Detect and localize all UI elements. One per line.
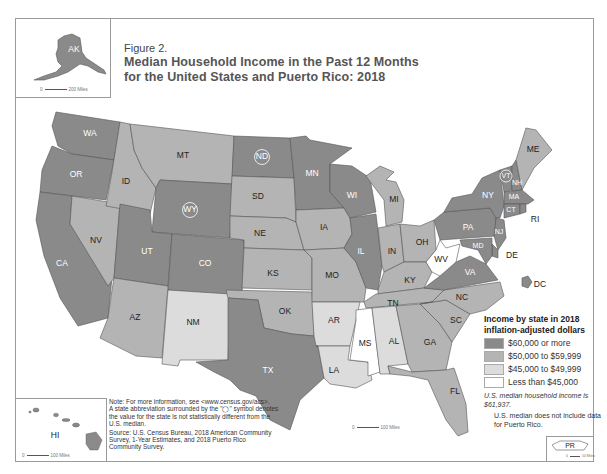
label-DC: DC <box>534 279 546 289</box>
label-NE: NE <box>254 228 266 238</box>
label-WI: WI <box>347 190 357 200</box>
scale-label: 200 Miles <box>69 87 88 92</box>
label-TN: TN <box>387 298 398 308</box>
label-MD: MD <box>473 242 484 249</box>
label-NY: NY <box>482 190 494 200</box>
legend-item: $60,000 or more <box>484 337 596 349</box>
label-KS: KS <box>267 268 279 278</box>
figure-title-block: Figure 2. Median Household Income in the… <box>124 42 419 85</box>
label-ND: ND <box>256 151 268 161</box>
legend-item: Less than $45,000 <box>484 376 596 388</box>
legend: Income by state in 2018 inflation-adjust… <box>484 314 596 388</box>
legend-label: $60,000 or more <box>508 338 570 348</box>
label-MI: MI <box>389 194 398 204</box>
label-SC: SC <box>450 315 462 325</box>
label-IA: IA <box>320 222 328 232</box>
label-WV: WV <box>434 254 448 264</box>
label-PA: PA <box>463 222 474 232</box>
scale-bar-ak: 0200 Miles <box>40 87 88 92</box>
label-KY: KY <box>404 275 416 285</box>
legend-title-line1: Income by state in 2018 <box>484 314 596 325</box>
figure-title-line2: for the United States and Puerto Rico: 2… <box>124 70 419 85</box>
label-MS: MS <box>359 338 372 348</box>
label-CA: CA <box>56 258 68 268</box>
label-AL: AL <box>389 336 400 346</box>
legend-item: $45,000 to $49,999 <box>484 363 596 375</box>
scale-zero: 0 <box>566 454 568 458</box>
scale-bar-hi: 0100 Miles <box>22 453 70 458</box>
label-DE: DE <box>506 250 518 260</box>
pr-excluded-note: U.S. median does not include data for Pu… <box>494 411 604 429</box>
label-WA: WA <box>83 128 97 138</box>
label-OH: OH <box>416 237 429 247</box>
label-NV: NV <box>90 235 102 245</box>
legend-label: $50,000 to $59,999 <box>508 351 581 361</box>
label-GA: GA <box>424 337 437 347</box>
state-DC <box>522 276 532 288</box>
us-median-note: U.S. median household income is $61,937. <box>484 391 599 409</box>
state-RI <box>520 204 526 214</box>
label-ME: ME <box>527 144 540 154</box>
legend-swatch-45k-50k <box>484 364 504 375</box>
source-note: Source: U.S. Census Bureau, 2018 America… <box>109 429 279 451</box>
label-SD: SD <box>252 191 264 201</box>
notes-block: Note: For more information, see <www.cen… <box>109 398 279 451</box>
scale-bar-pr: 050 Miles <box>566 454 595 458</box>
label-OR: OR <box>70 169 83 179</box>
state-FL <box>388 366 468 436</box>
label-MA: MA <box>509 193 520 200</box>
label-AK: AK <box>68 44 80 54</box>
scale-zero: 0 <box>22 453 25 458</box>
legend-label: Less than $45,000 <box>508 377 578 387</box>
label-IN: IN <box>388 246 397 256</box>
label-NJ: NJ <box>495 228 504 235</box>
label-RI: RI <box>531 214 540 224</box>
label-NM: NM <box>186 317 199 327</box>
legend-title-line2: inflation-adjusted dollars <box>484 325 596 336</box>
label-NH: NH <box>512 179 522 186</box>
label-VT: VT <box>502 172 512 179</box>
label-TX: TX <box>263 365 274 375</box>
scale-label: 50 Miles <box>582 454 595 458</box>
label-UT: UT <box>141 246 152 256</box>
label-MO: MO <box>325 270 339 280</box>
label-WY: WY <box>183 204 197 214</box>
scale-zero: 0 <box>40 87 43 92</box>
label-LA: LA <box>329 365 340 375</box>
label-VA: VA <box>465 267 476 277</box>
label-CO: CO <box>199 258 212 268</box>
legend-swatch-under-45k <box>484 377 504 388</box>
figure-title-line1: Median Household Income in the Past 12 M… <box>124 55 419 70</box>
label-IL: IL <box>357 246 364 256</box>
scale-bar-main: 0100 Miles <box>352 425 400 430</box>
scale-label: 100 Miles <box>381 425 400 430</box>
state-NM <box>162 290 230 366</box>
legend-label: $45,000 to $49,999 <box>508 364 581 374</box>
label-ID: ID <box>122 176 131 186</box>
note-more-info: Note: For more information, see <www.cen… <box>109 398 279 405</box>
label-AZ: AZ <box>130 312 141 322</box>
figure-number: Figure 2. <box>124 42 419 55</box>
label-MT: MT <box>177 150 189 160</box>
legend-item: $50,000 to $59,999 <box>484 350 596 362</box>
legend-swatch-60k-plus <box>484 338 504 349</box>
label-AR: AR <box>328 315 340 325</box>
scale-zero: 0 <box>352 425 355 430</box>
legend-swatch-50k-60k <box>484 351 504 362</box>
label-HI: HI <box>51 430 60 440</box>
state-AK <box>34 34 106 80</box>
note-symbol: A state abbreviation surrounded by the "… <box>109 405 279 427</box>
label-CT: CT <box>506 206 516 213</box>
state-HI <box>29 408 102 450</box>
scale-label: 100 Miles <box>51 453 70 458</box>
label-MN: MN <box>305 168 318 178</box>
label-PR: PR <box>565 442 575 449</box>
label-FL: FL <box>450 386 460 396</box>
label-NC: NC <box>456 292 468 302</box>
label-OK: OK <box>279 306 292 316</box>
